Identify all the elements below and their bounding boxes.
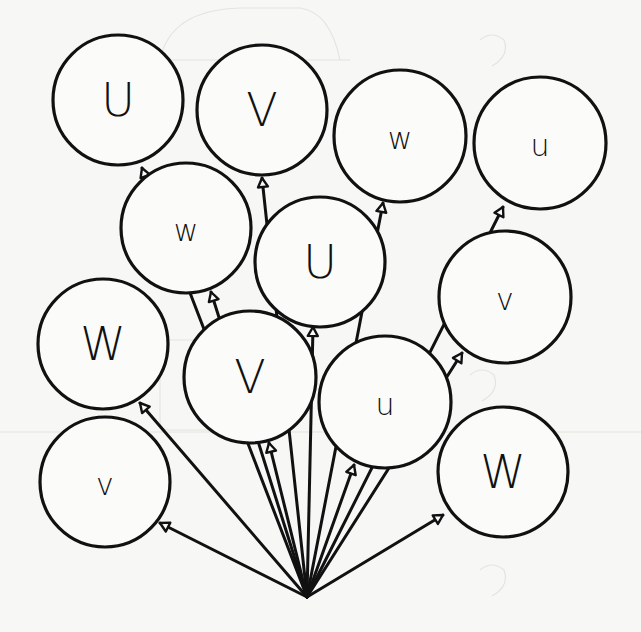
balloon-worksheet: UVwuwUvWVuvW <box>0 0 641 632</box>
balloon-knot-icon <box>258 178 268 188</box>
balloon-letter: w <box>174 213 199 248</box>
balloon-lower-u[interactable]: u <box>474 77 606 217</box>
balloon-knot-icon <box>495 207 504 217</box>
balloon-string <box>307 465 354 597</box>
balloon-knot-icon <box>209 292 219 302</box>
balloon-knot-icon <box>346 465 355 475</box>
balloon-string <box>160 523 307 597</box>
balloon-knot-icon <box>433 515 443 524</box>
balloon-letter: W <box>80 317 125 371</box>
balloon-knot-icon <box>376 203 386 213</box>
balloon-upper-W[interactable]: W <box>433 407 568 537</box>
balloons: UVwuwUvWVuvW <box>38 35 606 547</box>
balloon-upper-V[interactable]: V <box>197 45 327 188</box>
balloon-lower-v[interactable]: v <box>40 417 170 547</box>
balloon-letter: v <box>96 467 114 502</box>
balloon-letter: W <box>480 445 525 499</box>
balloon-letter: U <box>101 73 135 127</box>
balloon-knot-icon <box>266 443 276 453</box>
balloon-knot-icon <box>453 353 462 363</box>
balloon-letter: u <box>375 387 394 422</box>
balloon-knot-icon <box>160 523 170 532</box>
balloon-upper-U[interactable]: U <box>53 35 183 178</box>
balloon-letter: u <box>530 128 549 163</box>
balloon-lower-v[interactable]: v <box>439 231 571 363</box>
balloon-lower-w[interactable]: w <box>334 70 466 213</box>
balloon-letter: U <box>303 235 337 289</box>
balloon-letter: w <box>388 121 413 156</box>
balloon-upper-W[interactable]: W <box>38 279 168 413</box>
balloon-letter: V <box>246 83 277 137</box>
balloon-lower-w[interactable]: w <box>121 163 251 302</box>
balloon-letter: V <box>234 350 265 404</box>
balloon-diagram: UVwuwUvWVuvW <box>0 0 641 632</box>
balloon-letter: v <box>496 282 514 317</box>
balloon-lower-u[interactable]: u <box>319 336 451 475</box>
